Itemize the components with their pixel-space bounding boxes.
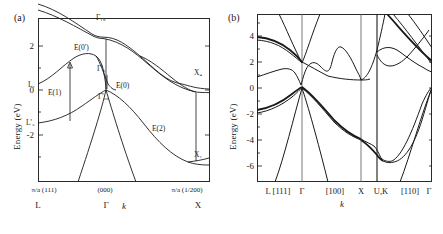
panel-a-xtick-L-coord: π/a (111) xyxy=(14,186,74,194)
panel-a-xtick-L: L xyxy=(26,200,50,210)
panel-a-annotation-L1: L₁ xyxy=(28,80,35,89)
panel-a-xtick-X: X xyxy=(186,200,210,210)
panel-a-annotation-gamma25prime: Γ'₂₅ xyxy=(98,92,109,101)
panel-a-annotation-E0: E(0) xyxy=(116,81,129,90)
panel-a-annotation-X1: X₁ xyxy=(194,150,202,159)
panel-a-xtick-gamma: Γ xyxy=(94,200,118,210)
panel-a-annotation-gamma15: Γ₁₅ xyxy=(96,13,106,22)
panel-b-xtick-100: [100] xyxy=(318,186,352,196)
panel-a: (a) Energy (eV) 2 0 -2 xyxy=(0,0,222,234)
panel-a-x-axis-label: k xyxy=(122,201,126,211)
panel-a-annotation-E0prime: E(0') xyxy=(74,43,89,52)
panel-a-annotation-X4: X₄ xyxy=(194,68,202,77)
panel-a-bands xyxy=(0,0,222,234)
panel-a-annotation-E2: E(2) xyxy=(152,124,165,133)
panel-b-bands xyxy=(222,0,443,234)
panel-a-annotation-E1: E(1) xyxy=(48,88,61,97)
panel-b-xtick-gamma-left: Γ xyxy=(290,186,314,196)
panel-b-xtick-gamma-right: Γ xyxy=(420,186,438,196)
panel-b-xtick-UK: U,K xyxy=(368,186,394,196)
figure-band-structures: (a) Energy (eV) 2 0 -2 xyxy=(0,0,443,234)
panel-b: (b) Energy (eV) 4 2 0 -2 -4 -6 xyxy=(222,0,443,234)
panel-a-annotation-L3prime: L'₃ xyxy=(26,118,35,127)
panel-a-annotation-gamma2prime: Γ'₂ xyxy=(97,64,105,73)
panel-b-x-axis-label: k xyxy=(340,199,344,209)
panel-a-xtick-gamma-coord: (000) xyxy=(82,186,128,194)
panel-a-xtick-X-coord: π/a (1/200) xyxy=(154,186,220,194)
